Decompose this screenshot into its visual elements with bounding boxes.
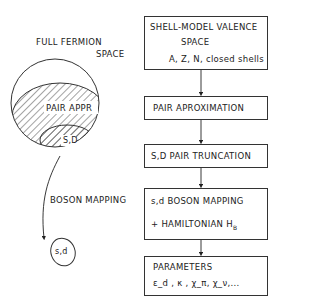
box4-line2: + HAMILTONIAN HB [151, 219, 237, 231]
pair-approx-box: PAIR APROXIMATION [144, 96, 268, 120]
box3-line1: S,D PAIR TRUNCATION [151, 151, 251, 161]
box1-line3: A, Z, N, closed shells [169, 54, 264, 64]
sd-truncation-box: S,D PAIR TRUNCATION [144, 144, 268, 168]
box1-line2: SPACE [181, 37, 209, 47]
boson-mapping-label: BOSON MAPPING [50, 195, 126, 205]
parameters-box: PARAMETERS ε_d , κ , χ_π, χ_ν,... [144, 256, 268, 296]
box4-line1: s,d BOSON MAPPING [151, 196, 244, 206]
shell-model-box: SHELL-MODEL VALENCE SPACE A, Z, N, close… [144, 16, 268, 70]
space-label: SPACE [96, 49, 124, 59]
box2-line1: PAIR APROXIMATION [153, 103, 244, 113]
sd-label: S,D [63, 136, 78, 145]
box5-line2: ε_d , κ , χ_π, χ_ν,... [153, 278, 239, 288]
full-fermion-label: FULL FERMION [36, 37, 102, 47]
boson-mapping-box: s,d BOSON MAPPING + HAMILTONIAN HB [144, 188, 268, 240]
box5-line1: PARAMETERS [153, 262, 212, 272]
boson-space-label: s,d [55, 247, 68, 256]
pair-appr-label: PAIR APPR [46, 103, 92, 113]
box1-line1: SHELL-MODEL VALENCE [150, 22, 257, 32]
